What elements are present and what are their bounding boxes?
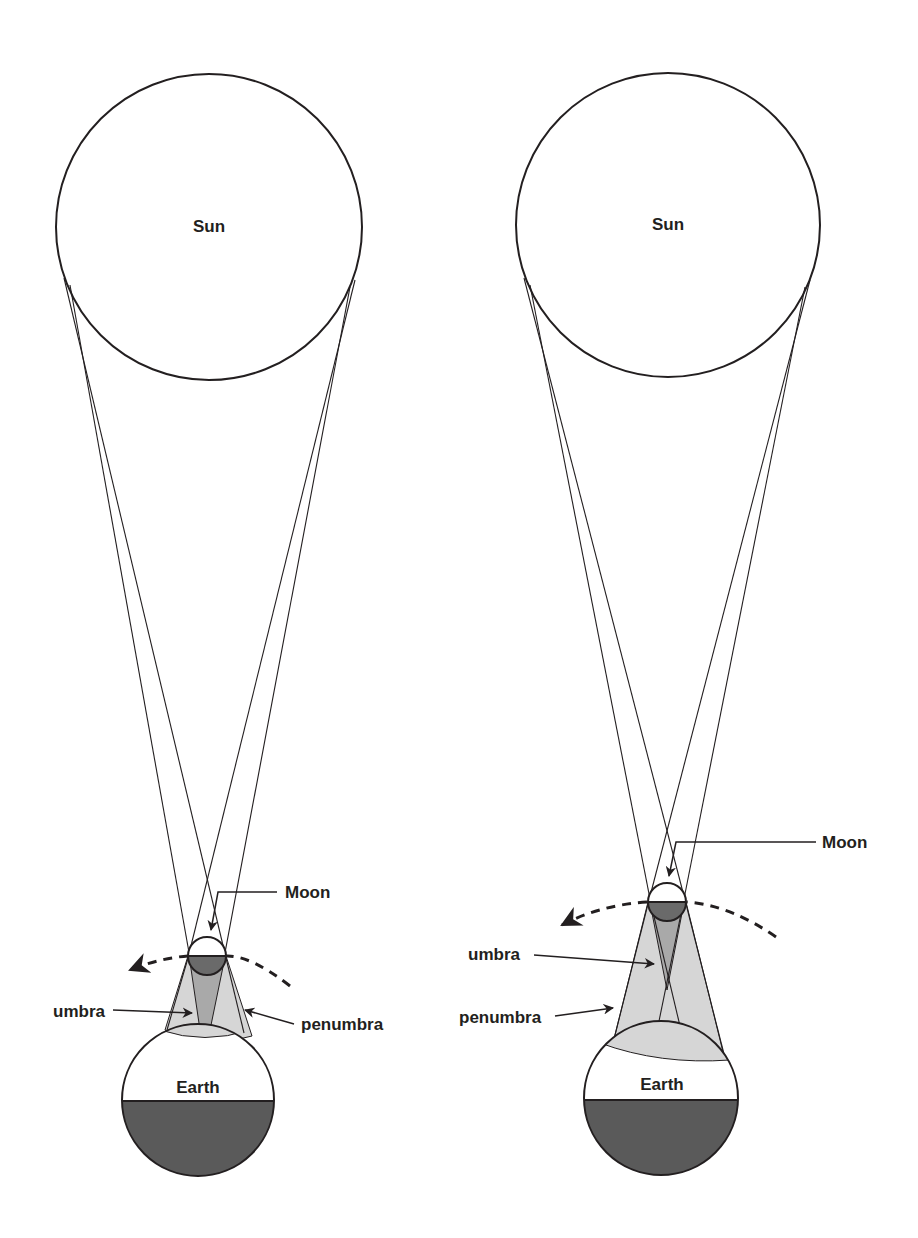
sun-left-label: Sun — [193, 217, 225, 236]
right-panel: Sun Earth — [459, 73, 867, 1190]
earth-right-label: Earth — [640, 1075, 683, 1094]
moon-right-leader — [669, 842, 816, 876]
orbit-arc-left-2 — [130, 956, 188, 970]
penumbra-right-arrow — [555, 1008, 613, 1016]
orbit-arc-left — [226, 956, 290, 986]
earth-left-label: Earth — [176, 1078, 219, 1097]
moon-right-label: Moon — [822, 833, 867, 852]
eclipse-diagram: Sun Earth Moo — [0, 0, 918, 1238]
penumbra-right-label: penumbra — [459, 1008, 542, 1027]
left-panel: Sun Earth Moo — [53, 74, 384, 1191]
sun-right-label: Sun — [652, 215, 684, 234]
umbra-left-label: umbra — [53, 1002, 106, 1021]
umbra-right-label: umbra — [468, 945, 521, 964]
penumbra-left-label: penumbra — [301, 1015, 384, 1034]
orbit-arc-right — [687, 902, 776, 937]
orbit-arc-right-2 — [562, 902, 647, 925]
penumbra-left-arrow — [245, 1010, 294, 1024]
sun-rays-left — [64, 278, 355, 1033]
moon-left-label: Moon — [285, 883, 330, 902]
earth-right-night-side — [580, 1100, 750, 1190]
moon-left-leader — [211, 892, 277, 930]
